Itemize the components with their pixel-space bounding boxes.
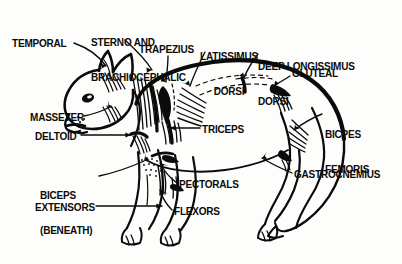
- extensor-guide-line: [147, 175, 148, 205]
- label-bicpes-femoris: BICPES FEMORIS: [325, 106, 369, 198]
- label-gluteal-text: GLUTEAL: [292, 68, 338, 79]
- label-deltoid-text: DELTOID: [35, 131, 77, 142]
- label-trapezius: TRAPEZIUS: [139, 44, 194, 56]
- label-extensors: EXTENSORS: [35, 202, 95, 214]
- label-deltoid: DELTOID: [35, 131, 77, 143]
- label-extensors-text: EXTENSORS: [35, 202, 95, 213]
- label-temporal: TEMPORAL: [12, 38, 67, 50]
- label-temporal-text: TEMPORAL: [12, 38, 67, 49]
- label-biceps-line1: BICEPS: [40, 190, 92, 202]
- label-flexors-text: FLEXORS: [174, 206, 220, 217]
- deltoid-muscle: [131, 133, 150, 154]
- label-gastrocnemius-text: GASTROCNEMIUS: [294, 169, 380, 180]
- label-latissimus-dorsi: LATISSIMUS DORSI: [196, 28, 262, 120]
- label-sterno-and-brachiocephalic: STERNO AND BRACHIOCEPHALIC: [91, 14, 186, 106]
- label-gastrocnemius: GASTROCNEMIUS: [294, 169, 380, 181]
- label-masseter: MASSETER: [30, 112, 84, 124]
- triceps-muscle: [162, 120, 181, 144]
- leader-biceps-beneath: [99, 161, 144, 176]
- label-trapezius-text: TRAPEZIUS: [139, 44, 194, 55]
- label-latissimus-line1: LATISSIMUS: [196, 51, 262, 63]
- label-triceps-text: TRICEPS: [202, 124, 244, 135]
- label-sterno-line2: BRACHIOCEPHALIC: [91, 72, 186, 84]
- leader-masseter: [84, 108, 108, 116]
- label-pectorals-text: PECTORALS: [179, 179, 239, 190]
- label-triceps: TRICEPS: [202, 124, 244, 136]
- label-latissimus-line2: DORSI: [196, 86, 262, 98]
- foreleg-far-back: [181, 157, 196, 230]
- label-masseter-text: MASSETER: [30, 112, 84, 123]
- label-flexors: FLEXORS: [174, 206, 220, 218]
- label-bicpes-line1: BICPES: [325, 129, 369, 141]
- anatomy-diagram-figure: TEMPORAL STERNO AND BRACHIOCEPHALIC TRAP…: [0, 0, 402, 264]
- label-biceps-line2: (BENEATH): [40, 225, 92, 237]
- label-pectorals: PECTORALS: [179, 179, 239, 191]
- foreleg-far-front: [166, 155, 178, 229]
- label-gluteal: GLUTEAL: [292, 68, 338, 80]
- pectorals-edge: [152, 153, 173, 156]
